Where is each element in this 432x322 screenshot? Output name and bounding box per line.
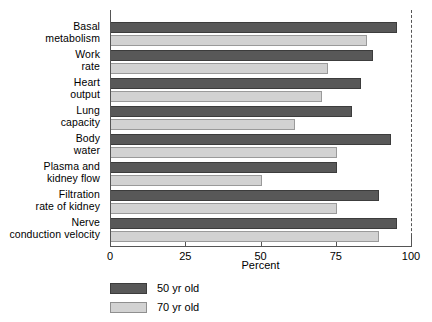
plot-area: 0255075100 bbox=[110, 10, 411, 246]
legend-label: 70 yr old bbox=[157, 301, 199, 313]
bar-series-50yr bbox=[111, 218, 397, 229]
bar-chart: BasalmetabolismWorkrateHeartoutputLungca… bbox=[0, 0, 432, 322]
bar-series-70yr bbox=[111, 63, 328, 74]
bar-series-70yr bbox=[111, 203, 337, 214]
bar-series-50yr bbox=[111, 22, 397, 33]
bar-series-70yr bbox=[111, 35, 367, 46]
category-axis-labels: BasalmetabolismWorkrateHeartoutputLungca… bbox=[0, 22, 104, 246]
legend-item: 50 yr old bbox=[110, 280, 199, 296]
bar-series-70yr bbox=[111, 119, 295, 130]
bar-series-70yr bbox=[111, 147, 337, 158]
bar-series-50yr bbox=[111, 50, 373, 61]
category-label: Basalmetabolism bbox=[0, 21, 100, 44]
category-label: Nerveconduction velocity bbox=[0, 217, 100, 240]
legend-swatch bbox=[110, 302, 147, 313]
x-axis-line bbox=[110, 246, 412, 247]
bar-series-50yr bbox=[111, 78, 361, 89]
category-label: Filtrationrate of kidney bbox=[0, 189, 100, 212]
category-label: Workrate bbox=[0, 49, 100, 72]
legend-label: 50 yr old bbox=[157, 282, 199, 294]
category-label: Lungcapacity bbox=[0, 105, 100, 128]
bar-series-50yr bbox=[111, 162, 337, 173]
reference-line-100 bbox=[411, 10, 412, 246]
bar-series-50yr bbox=[111, 106, 352, 117]
bar-series-70yr bbox=[111, 91, 322, 102]
category-label: Plasma andkidney flow bbox=[0, 161, 100, 184]
bar-series-50yr bbox=[111, 134, 391, 145]
bar-series-50yr bbox=[111, 190, 379, 201]
legend-item: 70 yr old bbox=[110, 299, 199, 315]
legend-swatch bbox=[110, 283, 147, 294]
bar-series-70yr bbox=[111, 175, 262, 186]
category-label: Heartoutput bbox=[0, 77, 100, 100]
x-axis-tick bbox=[411, 235, 412, 246]
x-axis-title: Percent bbox=[110, 259, 411, 271]
bar-series-70yr bbox=[111, 231, 379, 242]
chart-legend: 50 yr old70 yr old bbox=[110, 280, 199, 318]
category-label: Bodywater bbox=[0, 133, 100, 156]
